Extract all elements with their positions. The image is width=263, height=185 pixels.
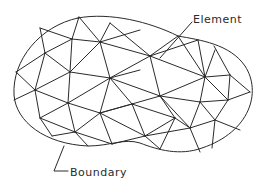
boundary-curve [14,16,252,152]
element-label: Element [193,13,242,26]
boundary-leader-line [54,146,68,171]
boundary-label: Boundary [70,166,127,179]
mesh-edges [14,17,250,152]
mesh-svg [0,0,263,185]
element-leader-line [160,22,192,58]
